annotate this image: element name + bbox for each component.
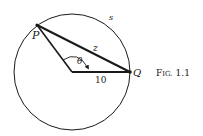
label-angle-theta: θ bbox=[77, 56, 83, 66]
label-radius-10: 10 bbox=[95, 75, 107, 85]
caption-smallcaps: IG. bbox=[162, 70, 172, 78]
chord-pq bbox=[37, 25, 130, 72]
circle-diagram: P Q s z θ 10 FIG.1.1 bbox=[0, 0, 203, 136]
radius-op bbox=[37, 25, 72, 72]
point-p-dot bbox=[35, 23, 38, 26]
figure-caption: FIG.1.1 bbox=[156, 68, 190, 78]
label-arc-s: s bbox=[109, 13, 113, 22]
label-chord-z: z bbox=[92, 43, 98, 53]
point-q-dot bbox=[128, 70, 132, 74]
label-p: P bbox=[31, 29, 40, 42]
caption-number: 1.1 bbox=[176, 68, 190, 78]
label-q: Q bbox=[133, 67, 141, 78]
